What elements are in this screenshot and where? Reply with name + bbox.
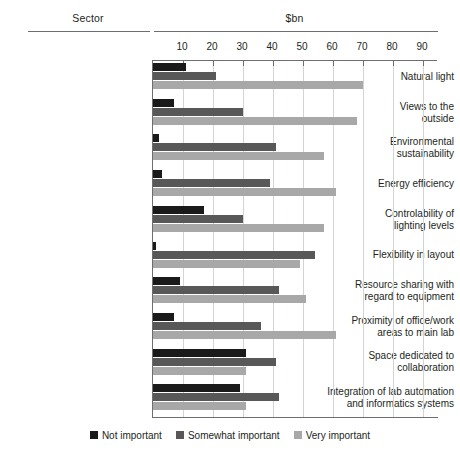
bar: [153, 313, 174, 321]
legend-item[interactable]: Not important: [90, 430, 162, 441]
plot-area: [152, 60, 437, 417]
bar: [153, 179, 270, 187]
x-tick-label: 10: [169, 41, 195, 52]
bar: [153, 277, 180, 285]
legend-swatch-icon: [176, 431, 184, 439]
chart-header: Sector $bn: [0, 0, 460, 40]
bar: [153, 63, 186, 71]
legend-label: Somewhat important: [188, 430, 280, 441]
bar: [153, 170, 162, 178]
bar: [153, 349, 246, 357]
bar-group: [153, 97, 437, 133]
x-tick-label: 30: [229, 41, 255, 52]
bar-group: [153, 132, 437, 168]
bar-group: [153, 240, 437, 276]
x-axis-baseline: [152, 417, 438, 418]
bar: [153, 81, 363, 89]
legend-item[interactable]: Very important: [294, 430, 370, 441]
x-tick-label: 70: [349, 41, 375, 52]
bar: [153, 215, 243, 223]
x-tick-label: 50: [289, 41, 315, 52]
bar: [153, 134, 159, 142]
sector-header-rule: [28, 31, 150, 32]
bar: [153, 286, 279, 294]
bar: [153, 260, 300, 268]
legend-swatch-icon: [90, 431, 98, 439]
bar-group: [153, 347, 437, 383]
x-tick-label: 40: [259, 41, 285, 52]
bar-group: [153, 204, 437, 240]
bar: [153, 108, 243, 116]
x-tick-label: 60: [319, 41, 345, 52]
unit-column-title: $bn: [152, 12, 437, 24]
unit-header-rule: [154, 31, 438, 32]
legend-label: Not important: [102, 430, 162, 441]
legend-item[interactable]: Somewhat important: [176, 430, 280, 441]
bar: [153, 322, 261, 330]
bar: [153, 251, 315, 259]
bar-group: [153, 61, 437, 97]
bar: [153, 152, 324, 160]
bar-group: [153, 382, 437, 418]
bar-group: [153, 275, 437, 311]
bar: [153, 188, 336, 196]
chart-legend: Not importantSomewhat importantVery impo…: [0, 426, 460, 444]
bar: [153, 99, 174, 107]
legend-label: Very important: [306, 430, 370, 441]
bar: [153, 393, 279, 401]
bar-group: [153, 311, 437, 347]
legend-swatch-icon: [294, 431, 302, 439]
x-tick-label: 90: [409, 41, 435, 52]
bar: [153, 402, 246, 410]
bar: [153, 295, 306, 303]
x-axis-tick-labels: 102030405060708090: [0, 41, 460, 57]
bar: [153, 143, 276, 151]
bar: [153, 224, 324, 232]
bar: [153, 358, 276, 366]
bar: [153, 242, 156, 250]
bar: [153, 331, 336, 339]
bar: [153, 117, 357, 125]
bar: [153, 384, 240, 392]
bar-group: [153, 168, 437, 204]
bar: [153, 72, 216, 80]
sector-column-title: Sector: [28, 12, 148, 24]
bar: [153, 206, 204, 214]
x-tick-label: 20: [199, 41, 225, 52]
x-tick-label: 80: [379, 41, 405, 52]
bar: [153, 367, 246, 375]
